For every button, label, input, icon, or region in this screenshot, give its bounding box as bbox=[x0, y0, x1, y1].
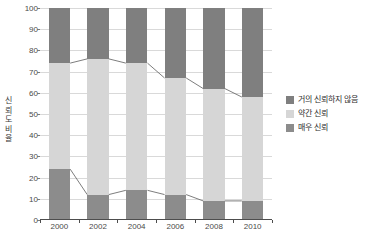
x-axis-tick-mark bbox=[272, 220, 273, 223]
x-axis-tick-label: 2002 bbox=[89, 222, 107, 231]
x-axis-tick-label: 2000 bbox=[50, 222, 68, 231]
y-axis-title-char: 도 bbox=[1, 115, 15, 125]
y-axis-title-char: 율 bbox=[1, 134, 15, 144]
x-axis-tick-label: 2010 bbox=[244, 222, 262, 231]
y-axis-tick-label: 10 bbox=[16, 194, 38, 203]
connector-line-upper bbox=[70, 59, 87, 63]
y-axis-tick-label: 70 bbox=[16, 67, 38, 76]
y-axis-tick-label: 60 bbox=[16, 88, 38, 97]
x-axis-tick-label: 2008 bbox=[205, 222, 223, 231]
y-axis-tick-label: 0 bbox=[16, 216, 38, 225]
y-axis-tick-label: 50 bbox=[16, 110, 38, 119]
y-axis-tick-label: 20 bbox=[16, 173, 38, 182]
legend-swatch-icon bbox=[286, 96, 294, 104]
y-axis-tick-label: 30 bbox=[16, 152, 38, 161]
connector-line-upper bbox=[109, 59, 126, 63]
y-axis-tick-label: 80 bbox=[16, 46, 38, 55]
connector-line-upper bbox=[186, 78, 203, 89]
stacked-bar-chart: 신뢰도비율 0102030405060708090100 20002002200… bbox=[0, 0, 376, 247]
x-axis-tick-label: 2006 bbox=[166, 222, 184, 231]
y-axis-tick-label: 40 bbox=[16, 131, 38, 140]
segment-connector-lines bbox=[40, 8, 272, 220]
y-axis-title-char: 비 bbox=[1, 125, 15, 135]
y-axis-tick-label: 100 bbox=[16, 4, 38, 13]
connector-line-lower bbox=[70, 169, 87, 194]
connector-line-upper bbox=[225, 89, 242, 97]
legend-item[interactable]: 거의 신뢰하지 않음 bbox=[286, 93, 374, 106]
legend-swatch-icon bbox=[286, 124, 294, 132]
legend-item[interactable]: 약간 신뢰 bbox=[286, 107, 374, 120]
x-axis-tick-labels: 200020022004200620082010 bbox=[40, 222, 272, 236]
legend-item[interactable]: 매우 신뢰 bbox=[286, 121, 374, 134]
y-axis-tick-labels: 0102030405060708090100 bbox=[14, 0, 38, 247]
connector-line-lower bbox=[186, 195, 203, 201]
legend-item-label: 약간 신뢰 bbox=[298, 109, 328, 118]
legend-swatch-icon bbox=[286, 110, 294, 118]
plot-area bbox=[40, 8, 272, 220]
legend-item-label: 거의 신뢰하지 않음 bbox=[298, 95, 358, 104]
x-axis-tick-label: 2004 bbox=[128, 222, 146, 231]
y-axis-title: 신뢰도비율 bbox=[1, 96, 15, 144]
y-axis-title-char: 신 bbox=[1, 96, 15, 106]
y-axis-tick-label: 90 bbox=[16, 25, 38, 34]
legend-item-label: 매우 신뢰 bbox=[298, 123, 328, 132]
y-axis-title-char: 뢰 bbox=[1, 106, 15, 116]
connector-line-lower bbox=[147, 190, 164, 194]
connector-line-upper bbox=[147, 63, 164, 78]
connector-line-lower bbox=[109, 190, 126, 194]
chart-legend: 거의 신뢰하지 않음약간 신뢰매우 신뢰 bbox=[286, 93, 374, 135]
